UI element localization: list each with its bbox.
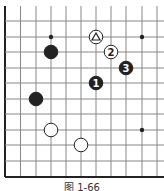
star-point (140, 35, 144, 39)
move-number: 1 (93, 78, 100, 89)
white-stone (44, 123, 58, 137)
go-board: 231 (0, 0, 164, 178)
diagram-caption: 图 1-66 (0, 179, 164, 191)
star-point (49, 35, 53, 39)
move-number: 2 (108, 47, 115, 58)
white-stone (74, 138, 88, 152)
star-point (140, 128, 144, 132)
black-stone (29, 92, 43, 106)
move-number: 3 (123, 63, 130, 74)
black-stone (44, 45, 58, 59)
